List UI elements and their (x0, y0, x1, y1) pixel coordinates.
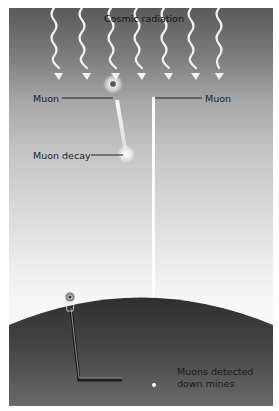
wavy-arrow-icon (52, 8, 60, 68)
wavy-arrow-icon (189, 8, 197, 68)
diagram-graphics (9, 8, 273, 406)
muon-trail (115, 100, 127, 148)
decay-burst-icon (117, 145, 135, 163)
detected-label-line1: Muons detected (177, 366, 253, 377)
detector-point (152, 383, 156, 387)
muon-left-label: Muon (33, 93, 59, 104)
cosmic-radiation-label: Cosmic radiation (104, 13, 184, 24)
muon-right-label: Muon (205, 93, 231, 104)
wavy-arrow-icon (80, 8, 88, 68)
muon-decay-label: Muon decay (33, 150, 91, 161)
detected-label-line2: down mines (177, 378, 234, 389)
earth-surface (9, 298, 273, 407)
arrowheads (54, 73, 224, 80)
cosmic-muon-diagram: Cosmic radiation Muon Muon Muon decay Mu… (9, 8, 273, 406)
wavy-arrow-icon (217, 8, 222, 68)
muon-particle-icon (110, 81, 117, 88)
